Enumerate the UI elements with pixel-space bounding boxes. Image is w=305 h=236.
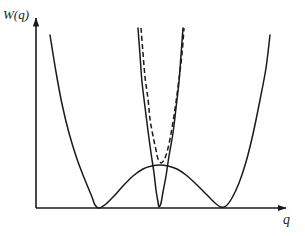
curve-narrow-parabola-dashed [141, 28, 184, 163]
plot-canvas [0, 0, 305, 236]
potential-energy-plot: W(q) q [0, 0, 305, 236]
x-axis-label: q [283, 213, 290, 227]
y-axis-label: W(q) [3, 8, 29, 21]
curve-double-well-potential [50, 35, 270, 208]
curve-narrow-parabola-solid [138, 28, 183, 207]
